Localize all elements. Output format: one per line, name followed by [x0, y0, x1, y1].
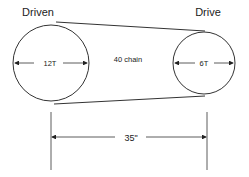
chain-label: 40 chain — [114, 55, 142, 64]
drive-sprocket-title: Drive — [195, 6, 221, 18]
driven-teeth-label: 12T — [44, 59, 57, 68]
drive-teeth-label: 6T — [200, 59, 209, 68]
chain-bottom-run — [54, 96, 205, 104]
driven-sprocket-title: Driven — [22, 6, 54, 18]
chain-drive-diagram: Driven Drive 12T 6T 40 chain 35" — [0, 0, 249, 177]
chain-top-run — [56, 22, 205, 31]
center-distance-label: 35" — [124, 133, 137, 143]
